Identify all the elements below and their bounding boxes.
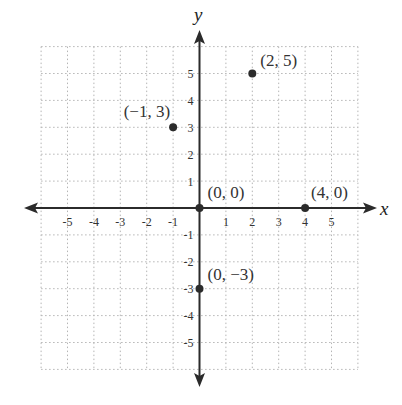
x-tick-label: -2 xyxy=(142,215,152,229)
point-marker xyxy=(301,204,309,212)
data-points: (2, 5)(−1, 3)(0, 0)(4, 0)(0, −3) xyxy=(124,51,348,293)
x-tick-label: 2 xyxy=(249,215,255,229)
y-tick-label: 1 xyxy=(188,175,194,189)
x-tick-label: -1 xyxy=(168,215,178,229)
y-tick-label: -2 xyxy=(184,255,194,269)
point-marker xyxy=(169,123,177,131)
y-tick-label: -4 xyxy=(184,309,194,323)
y-tick-label: 5 xyxy=(188,67,194,81)
point-marker xyxy=(248,70,256,78)
x-tick-label: 3 xyxy=(276,215,282,229)
x-tick-label: -5 xyxy=(63,215,73,229)
point-label: (4, 0) xyxy=(311,183,348,202)
y-tick-label: -3 xyxy=(184,282,194,296)
y-tick-label: -5 xyxy=(184,336,194,350)
x-tick-label: -3 xyxy=(115,215,125,229)
point-label: (0, 0) xyxy=(208,183,245,202)
x-axis-label: x xyxy=(379,198,389,219)
point-marker xyxy=(196,285,204,293)
y-tick-label: 2 xyxy=(188,148,194,162)
point-label: (−1, 3) xyxy=(124,102,170,121)
y-tick-label: -1 xyxy=(184,228,194,242)
point-marker xyxy=(196,204,204,212)
x-tick-label: 5 xyxy=(329,215,335,229)
y-tick-label: 4 xyxy=(188,94,194,108)
x-tick-label: 4 xyxy=(302,215,308,229)
point-label: (0, −3) xyxy=(208,265,254,284)
coordinate-plane: x y -5-4-3-2-112345 54321-1-2-3-4-5 (2, … xyxy=(0,0,402,405)
x-tick-label: 1 xyxy=(223,215,229,229)
y-axis-label: y xyxy=(192,4,203,25)
y-tick-label: 3 xyxy=(188,121,194,135)
x-tick-label: -4 xyxy=(89,215,99,229)
point-label: (2, 5) xyxy=(260,51,297,70)
